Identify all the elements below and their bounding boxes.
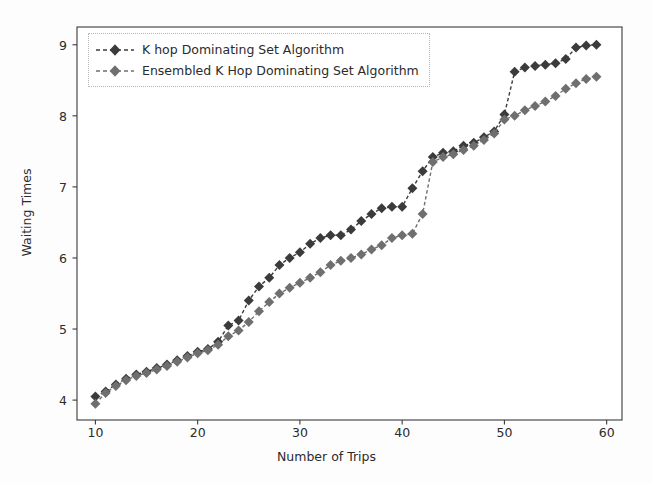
y-tick-label: 5: [41, 322, 67, 337]
x-tick-label: 10: [87, 425, 103, 440]
legend: K hop Dominating Set Algorithm Ensembled…: [88, 33, 430, 87]
x-tick-label: 60: [599, 425, 615, 440]
y-tick-label: 7: [41, 179, 67, 194]
legend-marker-icon-0: [95, 43, 135, 57]
legend-item-1: Ensembled K Hop Dominating Set Algorithm: [95, 60, 419, 81]
y-tick-label: 9: [41, 37, 67, 52]
legend-item-0: K hop Dominating Set Algorithm: [95, 39, 419, 60]
y-tick-label: 6: [41, 250, 67, 265]
legend-label-1: Ensembled K Hop Dominating Set Algorithm: [142, 63, 419, 78]
legend-marker-icon-1: [95, 64, 135, 78]
x-tick-label: 30: [292, 425, 308, 440]
x-tick-label: 20: [190, 425, 206, 440]
y-axis-label: Waiting Times: [19, 143, 34, 283]
legend-label-0: K hop Dominating Set Algorithm: [142, 42, 344, 57]
x-axis-label: Number of Trips: [0, 449, 653, 464]
y-tick-label: 8: [41, 108, 67, 123]
x-tick-label: 40: [394, 425, 410, 440]
chart-figure: 102030405060 456789 Number of Trips Wait…: [0, 0, 653, 483]
x-tick-label: 50: [496, 425, 512, 440]
y-tick-label: 4: [41, 393, 67, 408]
